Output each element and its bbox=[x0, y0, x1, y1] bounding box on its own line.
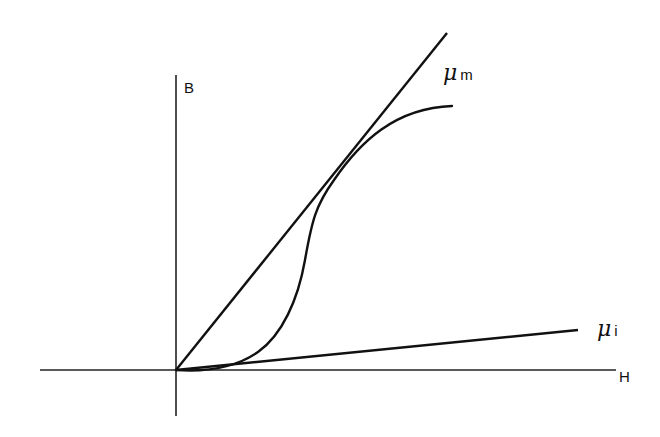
magnetization-curve bbox=[176, 106, 452, 370]
h-axis-label: H bbox=[619, 368, 630, 385]
mu-m-label: μm bbox=[443, 60, 473, 85]
bh-diagram bbox=[0, 0, 660, 437]
mu-i-subscript: i bbox=[614, 322, 617, 339]
mu-m-subscript: m bbox=[460, 66, 473, 83]
mu-i-label: μi bbox=[597, 316, 618, 341]
mu-m-symbol: μ bbox=[443, 60, 457, 85]
b-axis-label: B bbox=[184, 79, 194, 96]
mu-m-line bbox=[176, 33, 447, 370]
mu-i-symbol: μ bbox=[597, 316, 611, 341]
